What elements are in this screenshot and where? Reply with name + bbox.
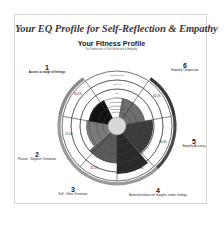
- percent-dim-5: 60.0%: [159, 140, 167, 144]
- percent-dim-6: 65.0%: [153, 94, 161, 98]
- percent-dim-2: 15.0%: [65, 132, 73, 136]
- dimension-1-callout: 1 Access to range of feelings: [25, 64, 69, 74]
- dimension-6-callout: 6 Empathy Compassion: [170, 62, 200, 72]
- dimension-5-label: Empathy Accuracy: [182, 145, 206, 148]
- ring-label-good-enough: Good Enough: [110, 108, 125, 111]
- dimension-6-label: Empathy Compassion: [170, 69, 200, 72]
- ring-label-functional: Functional 40: [110, 101, 125, 104]
- dimension-2-callout: 2 Positive - Negative Orientation: [15, 151, 59, 161]
- ring-label-optimally-fit: Optimally Fit: [110, 74, 124, 77]
- percent-dim-1: 60.0%: [74, 92, 82, 96]
- dimension-4-callout: 4 Balanced reliance on thoughts, needs, …: [125, 187, 191, 197]
- dimension-4-label: Balanced reliance on thoughts, needs, fe…: [125, 194, 191, 197]
- dimension-1-label: Access to range of feelings: [25, 71, 69, 74]
- dimension-3-callout: 3 Self - Other Orientation: [56, 186, 90, 196]
- dimension-2-label: Positive - Negative Orientation: [15, 158, 59, 161]
- percent-dim-3: 35.0%: [90, 166, 98, 170]
- center-hub: [108, 117, 126, 135]
- dimension-5-callout: 5 Empathy Accuracy: [182, 138, 206, 148]
- dimension-3-label: Self - Other Orientation: [56, 193, 90, 196]
- percent-dim-4: 77.5%: [136, 166, 144, 170]
- ring-label-very-fit: Very Fit: [113, 83, 121, 86]
